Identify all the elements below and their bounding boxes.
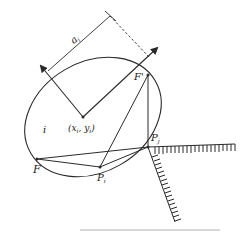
- axis-arrow-up-left: [41, 66, 83, 117]
- wall-diagonal: [148, 147, 181, 222]
- caption-faint: [80, 229, 220, 231]
- label-region-i: i: [43, 124, 46, 135]
- diagram-canvas: ai (xi, yi) i F F' Pi Pj: [0, 0, 242, 234]
- ray-Pi-Fprime: [100, 75, 148, 167]
- point-Fprime: [147, 74, 150, 77]
- label-Pj: Pj: [150, 132, 160, 145]
- label-F: F: [32, 163, 41, 176]
- label-center: (xi, yi): [68, 123, 95, 134]
- ellipse-boundary: [3, 33, 183, 200]
- center-point: [82, 116, 85, 119]
- label-a: ai: [68, 32, 82, 46]
- wall-horizontal: [148, 144, 235, 154]
- dimension-dashed-line: [110, 16, 150, 58]
- ray-lines: [37, 75, 148, 167]
- ray-F-Pi: [37, 159, 100, 167]
- point-F: [36, 158, 39, 161]
- label-Fprime: F': [133, 71, 144, 82]
- point-Pi: [99, 166, 102, 169]
- label-Pi: Pi: [96, 172, 106, 184]
- ellipse-reflection-diagram: ai (xi, yi) i F F' Pi Pj: [0, 0, 242, 234]
